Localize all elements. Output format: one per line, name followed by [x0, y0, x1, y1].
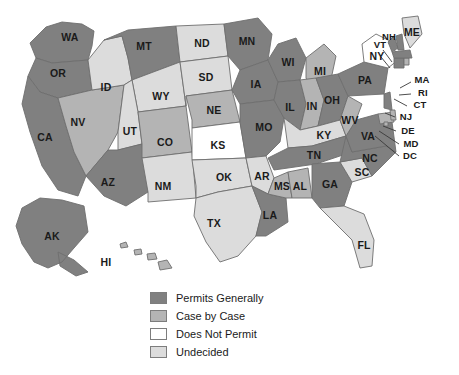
state-pa[interactable] [338, 62, 388, 96]
legend-item-none[interactable]: Does Not Permit [150, 325, 263, 343]
state-ct[interactable] [394, 58, 404, 68]
state-ri[interactable] [404, 58, 409, 65]
state-wa[interactable] [30, 22, 94, 63]
state-tx[interactable] [194, 186, 262, 262]
state-mo[interactable] [240, 100, 284, 158]
map-figure: WAORCANVIDMTWYUTAZCONMNDSDNEKSOKTXMNIAMO… [0, 0, 459, 375]
legend-label-undecided: Undecided [176, 347, 229, 358]
state-fl[interactable] [320, 206, 374, 268]
legend-swatch-none [150, 328, 167, 340]
state-ks[interactable] [192, 122, 246, 160]
legend-label-permits: Permits Generally [176, 293, 263, 304]
state-nj[interactable] [384, 92, 392, 110]
leader-line-ma [400, 82, 411, 88]
state-al[interactable] [288, 168, 312, 198]
legend-item-undecided[interactable]: Undecided [150, 343, 263, 361]
state-nm[interactable] [142, 152, 196, 202]
state-hi[interactable] [120, 242, 172, 270]
state-co[interactable] [138, 106, 192, 158]
legend-swatch-undecided [150, 346, 167, 358]
leader-line-ct [394, 99, 407, 106]
legend-label-case: Case by Case [176, 311, 245, 322]
legend: Permits GenerallyCase by CaseDoes Not Pe… [150, 289, 263, 361]
legend-label-none: Does Not Permit [176, 329, 257, 340]
leader-line-ri [399, 94, 411, 95]
state-me[interactable] [402, 16, 422, 48]
legend-swatch-permits [150, 292, 167, 304]
state-ak[interactable] [16, 198, 88, 276]
legend-swatch-case [150, 310, 167, 322]
state-ne[interactable] [186, 90, 240, 128]
legend-item-case[interactable]: Case by Case [150, 307, 263, 325]
state-dc[interactable] [384, 122, 388, 126]
legend-item-permits[interactable]: Permits Generally [150, 289, 263, 307]
state-nd[interactable] [176, 24, 228, 62]
